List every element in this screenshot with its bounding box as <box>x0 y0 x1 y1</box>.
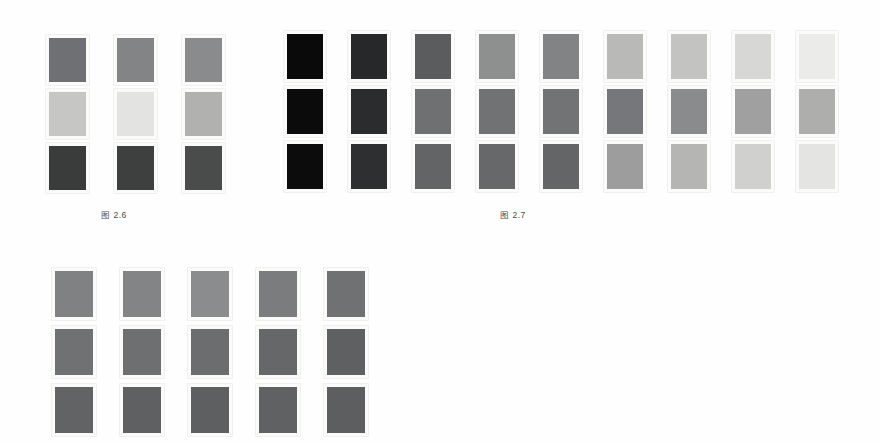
swatch-patch <box>287 34 323 79</box>
color-swatch <box>604 31 646 82</box>
swatch-patch <box>191 271 229 317</box>
swatch-patch <box>287 89 323 134</box>
swatch-patch <box>49 38 86 82</box>
swatch-patch <box>259 329 297 375</box>
swatch-patch <box>607 89 643 134</box>
swatch-patch <box>415 89 451 134</box>
swatch-patch <box>117 38 154 82</box>
color-swatch <box>796 141 838 192</box>
color-swatch <box>46 143 89 193</box>
color-swatch <box>46 89 89 139</box>
swatch-patch <box>671 34 707 79</box>
swatch-patch <box>415 34 451 79</box>
color-swatch <box>256 384 300 436</box>
color-swatch <box>668 86 710 137</box>
color-swatch <box>52 384 96 436</box>
swatch-patch <box>671 144 707 189</box>
swatch-patch <box>191 329 229 375</box>
color-swatch <box>604 86 646 137</box>
color-swatch <box>412 31 454 82</box>
color-swatch <box>540 31 582 82</box>
swatch-patch <box>185 38 222 82</box>
color-swatch <box>796 31 838 82</box>
swatch-patch <box>671 89 707 134</box>
color-swatch <box>188 268 232 320</box>
swatch-patch <box>123 387 161 433</box>
swatch-patch <box>799 89 835 134</box>
swatch-patch <box>799 34 835 79</box>
swatch-patch <box>479 34 515 79</box>
swatch-patch <box>259 271 297 317</box>
color-swatch <box>52 268 96 320</box>
figure-2-7-caption: 图 2.7 <box>473 208 553 220</box>
swatch-patch <box>415 144 451 189</box>
unlabeled-swatch-plate <box>40 265 380 439</box>
swatch-patch <box>327 387 365 433</box>
swatch-grid <box>40 265 380 439</box>
swatch-grid <box>33 33 237 195</box>
color-swatch <box>324 384 368 436</box>
color-swatch <box>348 31 390 82</box>
color-swatch <box>732 86 774 137</box>
color-swatch <box>188 326 232 378</box>
swatch-patch <box>543 89 579 134</box>
swatch-patch <box>55 271 93 317</box>
color-swatch <box>540 86 582 137</box>
color-swatch <box>182 89 225 139</box>
color-swatch <box>476 31 518 82</box>
swatch-patch <box>351 89 387 134</box>
color-swatch <box>348 86 390 137</box>
color-swatch <box>284 86 326 137</box>
color-swatch <box>412 141 454 192</box>
swatch-patch <box>327 271 365 317</box>
color-swatch <box>120 326 164 378</box>
color-swatch <box>412 86 454 137</box>
color-swatch <box>188 384 232 436</box>
swatch-patch <box>327 329 365 375</box>
color-swatch <box>604 141 646 192</box>
swatch-patch <box>735 144 771 189</box>
figure-2-7-swatch-plate <box>273 29 849 194</box>
color-swatch <box>796 86 838 137</box>
swatch-patch <box>123 271 161 317</box>
swatch-patch <box>351 34 387 79</box>
color-swatch <box>348 141 390 192</box>
color-swatch <box>182 143 225 193</box>
figure-page: 图 2.6 图 2.7 <box>0 0 880 443</box>
color-swatch <box>46 35 89 85</box>
swatch-patch <box>259 387 297 433</box>
swatch-patch <box>185 146 222 190</box>
color-swatch <box>732 31 774 82</box>
color-swatch <box>668 141 710 192</box>
swatch-patch <box>117 146 154 190</box>
color-swatch <box>52 326 96 378</box>
swatch-patch <box>287 144 323 189</box>
swatch-patch <box>607 34 643 79</box>
color-swatch <box>256 326 300 378</box>
color-swatch <box>114 35 157 85</box>
swatch-patch <box>185 92 222 136</box>
figure-2-6-swatch-plate <box>33 33 237 195</box>
swatch-patch <box>55 387 93 433</box>
swatch-grid <box>273 29 849 194</box>
color-swatch <box>284 31 326 82</box>
color-swatch <box>668 31 710 82</box>
swatch-patch <box>49 146 86 190</box>
color-swatch <box>182 35 225 85</box>
color-swatch <box>114 143 157 193</box>
swatch-patch <box>479 144 515 189</box>
swatch-patch <box>735 34 771 79</box>
figure-2-6-caption: 图 2.6 <box>74 208 154 220</box>
swatch-patch <box>607 144 643 189</box>
color-swatch <box>120 268 164 320</box>
color-swatch <box>284 141 326 192</box>
swatch-patch <box>55 329 93 375</box>
color-swatch <box>114 89 157 139</box>
swatch-patch <box>799 144 835 189</box>
swatch-patch <box>735 89 771 134</box>
color-swatch <box>540 141 582 192</box>
color-swatch <box>732 141 774 192</box>
swatch-patch <box>123 329 161 375</box>
color-swatch <box>256 268 300 320</box>
swatch-patch <box>543 144 579 189</box>
